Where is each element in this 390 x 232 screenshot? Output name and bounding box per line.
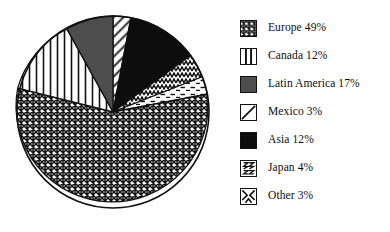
legend-item-canada: Canada 12% (240, 42, 390, 70)
vertical-lines-swatch-icon (240, 48, 257, 65)
pie-chart-figure: Europe 49% Canada 12% Latin America 17% … (0, 0, 390, 232)
legend-label-latin-america: Latin America 17% (268, 78, 360, 90)
legend-label-japan: Japan 4% (268, 162, 313, 174)
legend-item-mexico: Mexico 3% (240, 98, 390, 126)
pie-chart-svg (0, 0, 232, 232)
x-marks-swatch-icon (240, 188, 257, 205)
solid-dark-gray-swatch-icon (240, 76, 257, 93)
legend-label-asia: Asia 12% (268, 134, 314, 146)
legend-item-latin-america: Latin America 17% (240, 70, 390, 98)
legend-item-japan: Japan 4% (240, 154, 390, 182)
legend-item-asia: Asia 12% (240, 126, 390, 154)
pie-chart-plot-area (0, 0, 232, 232)
legend-label-mexico: Mexico 3% (268, 106, 322, 118)
chart-legend: Europe 49% Canada 12% Latin America 17% … (240, 14, 390, 220)
solid-black-swatch-icon (240, 132, 257, 149)
dense-crosshatch-swatch-icon (240, 20, 257, 37)
legend-label-other: Other 3% (268, 190, 313, 202)
legend-label-europe: Europe 49% (268, 22, 326, 34)
diagonal-line-swatch-icon (240, 104, 257, 121)
legend-item-europe: Europe 49% (240, 14, 390, 42)
legend-label-canada: Canada 12% (268, 50, 327, 62)
legend-item-other: Other 3% (240, 182, 390, 210)
zigzag-swatch-icon (240, 160, 257, 177)
